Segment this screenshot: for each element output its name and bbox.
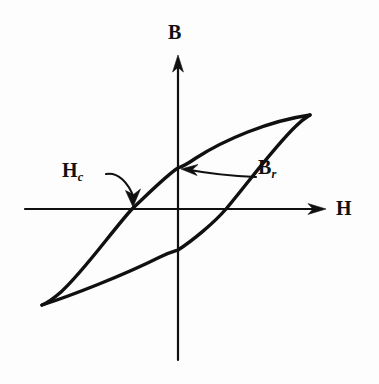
annotation-br-base: B <box>258 156 271 178</box>
br-leader-arrow <box>181 165 256 178</box>
annotation-hc-base: H <box>62 159 78 181</box>
br-leader-line <box>190 170 256 177</box>
axis-label-h: H <box>336 198 352 218</box>
hysteresis-diagram-canvas <box>0 0 379 384</box>
h-axis <box>25 204 326 215</box>
hysteresis-loop-figure: B H Hc Br <box>0 0 379 384</box>
annotation-hc-subscript: c <box>78 170 84 184</box>
annotation-label-hc: Hc <box>62 160 83 180</box>
hc-leader-arrow <box>106 174 141 207</box>
axis-label-b: B <box>168 22 181 42</box>
b-axis <box>173 55 184 360</box>
axis-label-h-text: H <box>336 197 352 219</box>
axis-label-b-text: B <box>168 21 181 43</box>
annotation-label-br: Br <box>258 157 276 177</box>
annotation-br-subscript: r <box>272 167 277 181</box>
